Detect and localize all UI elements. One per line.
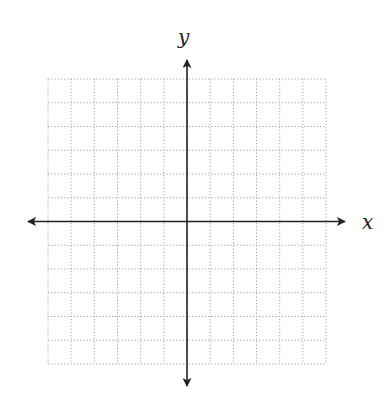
- coordinate-plane: x y: [0, 0, 390, 400]
- x-axis-label: x: [362, 210, 373, 234]
- y-axis-label: y: [177, 25, 190, 49]
